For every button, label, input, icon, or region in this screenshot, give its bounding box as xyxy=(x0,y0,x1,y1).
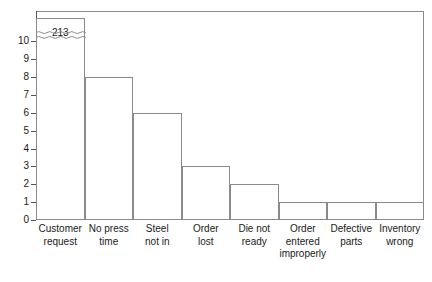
bar-5 xyxy=(230,184,279,220)
y-axis-tick-label: 0 xyxy=(23,215,29,225)
y-axis-tick xyxy=(31,220,36,221)
x-axis-label-7: Defective parts xyxy=(327,223,376,248)
x-axis-label-1: Customer request xyxy=(36,223,85,248)
y-axis-tick-label: 8 xyxy=(23,72,29,82)
y-axis-tick-label: 5 xyxy=(23,126,29,136)
bar-8 xyxy=(376,202,425,220)
pareto-chart: 012345678910 213 Customer requestNo pres… xyxy=(0,0,432,282)
y-axis-tick-label: 6 xyxy=(23,108,29,118)
y-axis-tick-label: 3 xyxy=(23,161,29,171)
y-axis-tick-label: 2 xyxy=(23,179,29,189)
bar-1 xyxy=(36,18,85,220)
bars-container: 213 xyxy=(36,11,424,220)
bar-2 xyxy=(85,77,134,220)
y-axis-tick-label: 9 xyxy=(23,54,29,64)
x-axis-label-6: Order entered improperly xyxy=(279,223,328,261)
y-axis-tick-label: 10 xyxy=(18,36,29,46)
x-axis-label-5: Die not ready xyxy=(230,223,279,248)
bar-value-label: 213 xyxy=(52,28,69,38)
y-axis-tick-label: 7 xyxy=(23,90,29,100)
x-axis-label-8: Inventory wrong xyxy=(376,223,425,248)
y-axis-tick-label: 4 xyxy=(23,144,29,154)
bar-4 xyxy=(182,166,231,220)
x-axis-labels: Customer requestNo press timeSteel not i… xyxy=(36,223,424,279)
x-axis-label-3: Steel not in xyxy=(133,223,182,248)
bar-7 xyxy=(327,202,376,220)
y-axis-tick-label: 1 xyxy=(23,197,29,207)
x-axis-label-4: Order lost xyxy=(182,223,231,248)
bar-6 xyxy=(279,202,328,220)
bar-3 xyxy=(133,113,182,220)
x-axis-label-2: No press time xyxy=(85,223,134,248)
